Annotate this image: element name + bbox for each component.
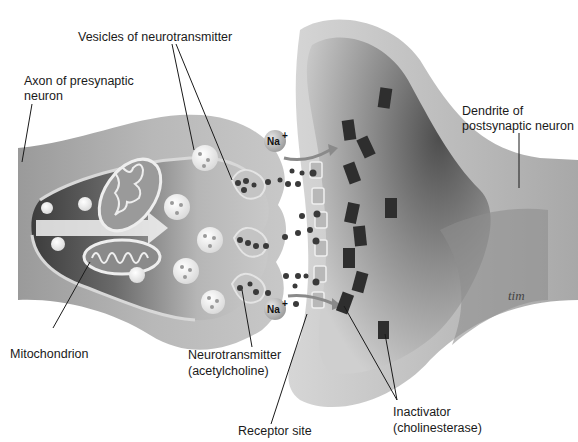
label-dendrite-line2: postsynaptic neuron [462,119,574,134]
label-receptor-site: Receptor site [238,424,312,439]
label-dendrite-line1: Dendrite of [462,104,523,119]
label-neurotransmitter-line2: (acetylcholine) [188,364,269,379]
svg-text:+: + [282,298,288,309]
svg-text:Na: Na [267,136,280,147]
artist-signature: tim [508,288,525,303]
label-neurotransmitter-line1: Neurotransmitter [188,348,281,363]
label-mitochondrion: Mitochondrion [10,347,89,362]
mitochondrion-lower [84,240,160,274]
label-axon-line2: neuron [24,89,63,104]
label-vesicles: Vesicles of neurotransmitter [78,30,232,45]
postsynaptic-dendrite [288,20,578,408]
label-axon-line1: Axon of presynaptic [24,74,134,89]
label-inactivator-line2: (cholinesterase) [393,421,482,436]
label-inactivator-line1: Inactivator [393,405,451,420]
svg-text:+: + [282,130,288,141]
svg-text:Na: Na [267,304,280,315]
synapse-diagram: Na + Na + tim Vesicles of [0,0,578,442]
